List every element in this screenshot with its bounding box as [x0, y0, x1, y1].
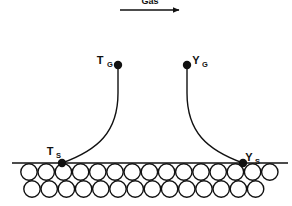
yg-subscript: G [202, 60, 208, 69]
particle-row-1-particle [176, 164, 192, 180]
particle-row-1-particle [227, 164, 243, 180]
particle-row-1-particle [141, 164, 157, 180]
yg-endpoint-dot [183, 61, 191, 69]
particle-row-2-particle [93, 181, 109, 197]
particle-row-1-particle [193, 164, 209, 180]
particle-row-2-particle [247, 181, 263, 197]
particle-row-2-particle [58, 181, 74, 197]
label-temperature-gas: T G [97, 54, 113, 69]
temperature-profile-curve [62, 65, 118, 163]
particle-row-1-particle [244, 164, 260, 180]
gas-flow-label: Gas [141, 0, 158, 6]
particle-row-1-particle [38, 164, 54, 180]
particle-row-1-particle [72, 164, 88, 180]
tg-symbol: T [97, 54, 104, 66]
label-temperature-surface: T S [47, 145, 61, 160]
particle-row-1-particle [21, 164, 37, 180]
particle-row-2-particle [213, 181, 229, 197]
particle-row-2-particle [161, 181, 177, 197]
label-mass-fraction-gas: Y G [192, 54, 208, 69]
particle-bed [21, 164, 278, 197]
ys-subscript: S [255, 157, 260, 166]
mass-fraction-profile-curve [187, 65, 243, 163]
particle-row-2-particle [24, 181, 40, 197]
ts-subscript: S [56, 151, 61, 160]
particle-row-2-particle [196, 181, 212, 197]
tg-subscript: G [107, 60, 113, 69]
tg-endpoint-dot [114, 61, 122, 69]
particle-row-1-particle [107, 164, 123, 180]
gas-solid-interface-diagram: Gas T G Y G T S Y [0, 0, 292, 206]
particle-row-2-particle [41, 181, 57, 197]
ys-symbol: Y [245, 151, 253, 163]
particle-row-2-particle [127, 181, 143, 197]
diagram-canvas: Gas T G Y G T S Y [0, 0, 292, 206]
particle-row-2-particle [230, 181, 246, 197]
particle-row-2-particle [110, 181, 126, 197]
particle-row-1-particle [90, 164, 106, 180]
particle-row-1-particle [124, 164, 140, 180]
ts-symbol: T [47, 145, 54, 157]
particle-row-2-particle [179, 181, 195, 197]
particle-row-2-particle [75, 181, 91, 197]
particle-row-2-particle [144, 181, 160, 197]
particle-row-1-particle [158, 164, 174, 180]
particle-row-1-particle [210, 164, 226, 180]
particle-row-1-particle [262, 164, 278, 180]
yg-symbol: Y [192, 54, 200, 66]
